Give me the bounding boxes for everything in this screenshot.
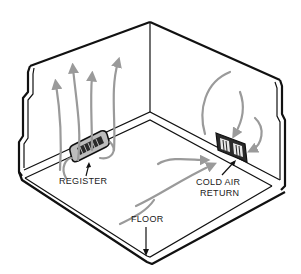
cold-air-return-label-line1: COLD AIR xyxy=(196,177,240,188)
floor-label: FLOOR xyxy=(131,214,164,225)
room-diagram xyxy=(0,0,301,274)
right-wall xyxy=(150,22,285,190)
floor-pointer-arrowhead-icon xyxy=(143,249,149,256)
register-vent-icon xyxy=(70,131,109,162)
cold-air-return-label-line2: RETURN xyxy=(200,188,239,199)
warm-airflow-arrows xyxy=(56,62,118,178)
register-pointer-arrowhead-icon xyxy=(86,162,91,168)
register-label: REGISTER xyxy=(59,176,107,187)
